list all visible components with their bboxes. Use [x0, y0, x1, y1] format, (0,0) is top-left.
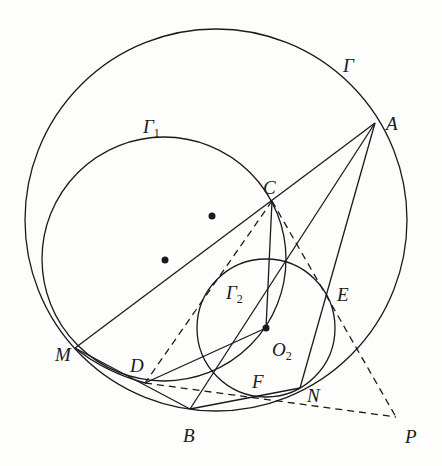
label-gamma2: Γ2 [226, 283, 243, 305]
label-M: M [55, 345, 71, 364]
figure-drawing [0, 0, 442, 466]
geometry-figure: Γ Γ1 Γ2 A C E M D O2 F N B P [0, 0, 442, 466]
point-O2-dot [263, 325, 270, 332]
center-dot-gamma1 [162, 257, 169, 264]
label-gamma1: Γ1 [143, 117, 160, 139]
label-B: B [183, 426, 195, 445]
dashed-D-P [145, 383, 396, 417]
line-D-O2 [145, 328, 266, 383]
dashed-C-D [145, 201, 272, 383]
label-gamma: Γ [343, 56, 354, 75]
label-A: A [386, 114, 398, 133]
line-A-N [300, 123, 375, 388]
label-D: D [130, 356, 144, 375]
label-E: E [337, 285, 349, 304]
label-N: N [307, 386, 320, 405]
dashed-C-P [272, 201, 396, 417]
line-C-O2 [266, 201, 272, 328]
label-F: F [252, 372, 264, 391]
center-dot-gamma [209, 213, 216, 220]
line-A-M [75, 123, 375, 348]
label-C: C [263, 178, 276, 197]
label-O2: O2 [272, 340, 292, 362]
label-P: P [405, 427, 417, 446]
line-A-B [190, 123, 375, 409]
